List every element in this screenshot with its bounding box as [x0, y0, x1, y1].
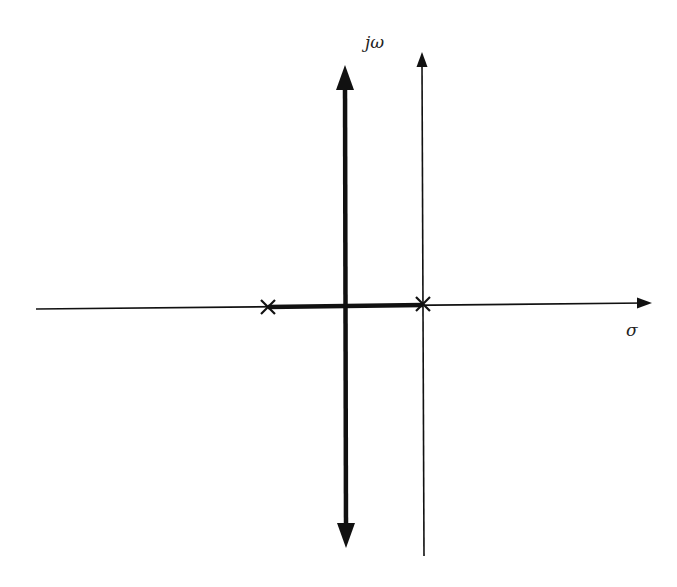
imaginary-axis-label: jω — [361, 32, 384, 52]
real-axis-label: σ — [626, 320, 638, 340]
locus-arrow-down-icon — [337, 523, 355, 548]
root-locus-diagram: jω σ — [0, 0, 677, 587]
imaginary-axis-arrowhead-icon — [417, 52, 428, 67]
locus-arrow-up-icon — [336, 65, 354, 90]
real-axis-arrowhead-icon — [637, 298, 652, 309]
